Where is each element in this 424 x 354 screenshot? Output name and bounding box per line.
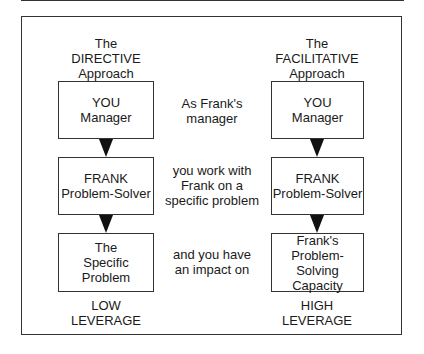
facilitative-box-you-manager: YOU Manager [271, 81, 364, 139]
directive-heading: The DIRECTIVE Approach [58, 36, 154, 81]
low-leverage-label: LOW LEVERAGE [58, 298, 154, 328]
caption-work-with-frank: you work with Frank on a specific proble… [154, 163, 270, 208]
arrow-down-icon [99, 139, 113, 157]
caption-managers-role: As Frank's manager [154, 96, 270, 126]
arrow-down-icon [310, 139, 324, 157]
facilitative-box-capacity: Frank's Problem-Solving Capacity [271, 233, 364, 292]
directive-box-specific-problem: The Specific Problem [58, 233, 154, 292]
top-rule [21, 0, 404, 1]
facilitative-heading: The FACILITATIVE Approach [264, 36, 370, 81]
caption-impact-on: and you have an impact on [154, 247, 270, 277]
arrow-down-icon [99, 215, 113, 233]
directive-box-frank: FRANK Problem-Solver [58, 157, 154, 215]
arrow-down-icon [310, 215, 324, 233]
high-leverage-label: HIGH LEVERAGE [264, 298, 370, 328]
facilitative-box-frank: FRANK Problem-Solver [271, 157, 364, 215]
directive-box-you-manager: YOU Manager [58, 81, 154, 139]
